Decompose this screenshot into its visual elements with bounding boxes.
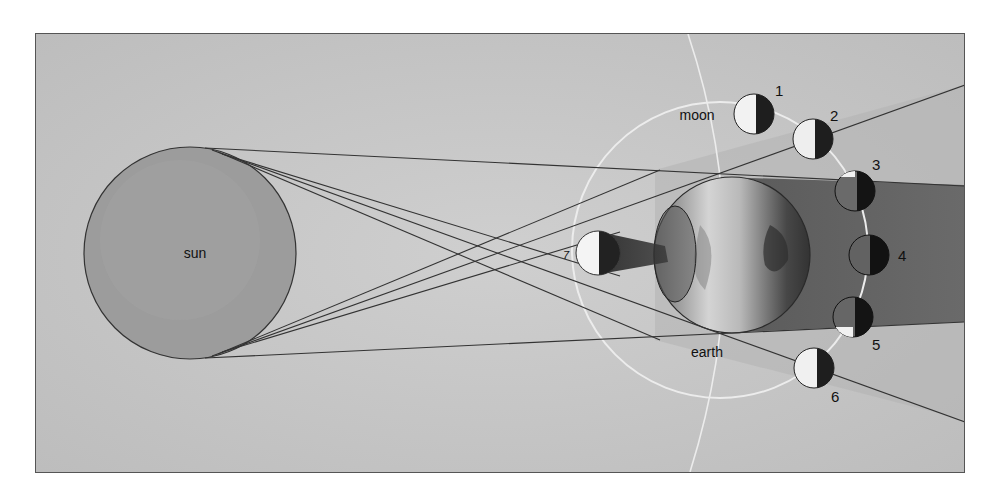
moon-2-number: 2 xyxy=(830,107,838,124)
moon-7-number: 7 xyxy=(563,249,570,261)
moon-label: moon xyxy=(679,107,714,123)
moon-6-number: 6 xyxy=(831,388,839,405)
sun-texture xyxy=(100,160,260,320)
earth-label: earth xyxy=(691,344,723,360)
sun-label: sun xyxy=(184,245,207,261)
moon-4-number: 4 xyxy=(898,247,906,264)
eclipse-diagram: sun earth moon 1 2 3 4 5 6 7 xyxy=(0,0,992,498)
moon-1-number: 1 xyxy=(775,82,783,99)
moon-3-number: 3 xyxy=(872,156,880,173)
moon-5-number: 5 xyxy=(872,336,880,353)
